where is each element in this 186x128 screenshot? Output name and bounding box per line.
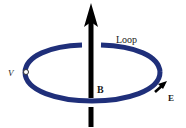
b-field-label: B [97, 84, 104, 95]
b-field-arrow-tail [89, 107, 94, 127]
b-field-arrow-shaft [89, 20, 94, 98]
faraday-loop-diagram: Loop B E V [0, 0, 186, 128]
emf-label: E [168, 93, 174, 103]
terminal-node [24, 70, 29, 75]
loop-label: Loop [116, 34, 137, 45]
voltage-label: V [8, 68, 15, 78]
